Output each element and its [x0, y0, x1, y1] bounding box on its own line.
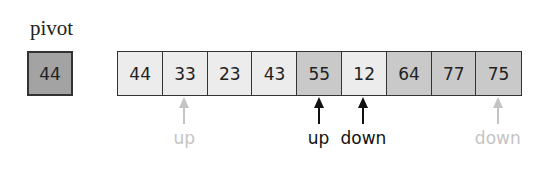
arrow-up-icon	[313, 97, 325, 124]
array-cell: 23	[207, 51, 253, 96]
pivot-label: pivot	[30, 16, 73, 41]
arrow-up-icon	[492, 97, 504, 124]
pointer-label: up	[308, 128, 330, 148]
arrow-up-icon	[178, 97, 190, 124]
pivot-box: 44	[27, 51, 73, 96]
arrow-up-icon	[357, 97, 369, 124]
array-cell: 43	[251, 51, 297, 96]
pointer-label: down	[475, 128, 521, 148]
array-cell: 44	[117, 51, 163, 96]
pointer-up-previous: up	[164, 97, 204, 148]
array-cell: 12	[341, 51, 387, 96]
array-cell: 64	[386, 51, 432, 96]
array-cell: 77	[431, 51, 477, 96]
array-cell: 55	[296, 51, 342, 96]
pointer-up-current: up	[299, 97, 339, 148]
array-cell: 33	[162, 51, 208, 96]
pointer-down-current: down	[343, 97, 383, 148]
pointer-label: up	[173, 128, 195, 148]
pointer-down-previous: down	[478, 97, 518, 148]
pointer-label: down	[340, 128, 386, 148]
array-cell: 75	[475, 51, 521, 96]
